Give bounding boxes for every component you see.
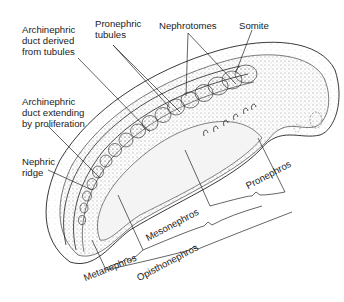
label-nephrotomes: Nephrotomes [159, 20, 217, 31]
label-pronephric-tubules: Pronephric tubules [95, 18, 141, 40]
label-archinephric-duct-derived: Archinephric duct derived from tubules [22, 24, 75, 57]
label-archinephric-duct-extending: Archinephric duct extending by prolifera… [22, 96, 85, 129]
label-nephric-ridge: Nephric ridge [22, 156, 55, 178]
label-somite: Somite [239, 20, 269, 31]
embryo-kidney-diagram: Archinephric duct derived from tubules P… [0, 0, 344, 302]
